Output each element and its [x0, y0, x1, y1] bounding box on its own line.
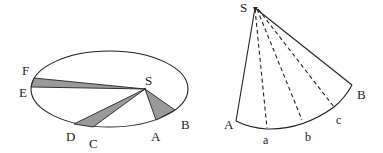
dashed-Sb	[257, 9, 302, 120]
focus-point-S	[144, 88, 146, 90]
label-B-right: B	[357, 87, 366, 102]
label-B-left: B	[181, 117, 190, 132]
sector-EF	[31, 78, 145, 89]
label-E: E	[19, 85, 27, 100]
dashed-Sc	[258, 9, 334, 107]
sector-cone-figure: S A B a b c	[224, 0, 366, 147]
label-F: F	[22, 63, 29, 78]
label-A-right: A	[224, 117, 234, 132]
label-b: b	[305, 130, 311, 144]
sector-AB	[145, 89, 175, 120]
ellipse-orbit-figure: F E S D C A B	[19, 51, 190, 151]
arc-AB	[236, 85, 352, 129]
label-D: D	[66, 129, 75, 144]
label-a: a	[263, 133, 269, 147]
label-C: C	[89, 136, 98, 151]
dashed-Sa	[255, 9, 267, 128]
diagram-canvas: F E S D C A B S A B a b c	[0, 0, 383, 153]
label-S-right: S	[240, 0, 247, 15]
label-S-left: S	[145, 73, 152, 88]
label-c: c	[336, 113, 341, 127]
sector-CD	[74, 89, 145, 127]
label-A-left: A	[151, 129, 161, 144]
side-SB	[255, 8, 352, 85]
side-SA	[236, 8, 255, 121]
